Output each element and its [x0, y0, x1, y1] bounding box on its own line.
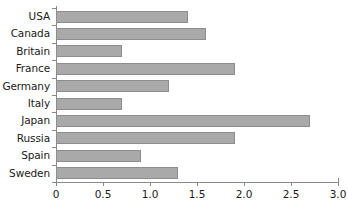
bar-sweden[interactable]: [56, 167, 178, 179]
bar-japan[interactable]: [56, 115, 310, 127]
bar-row: [56, 130, 338, 147]
y-axis-tick-usa: [52, 8, 56, 9]
bar-chart: USACanadaBritainFranceGermanyItalyJapanR…: [0, 0, 348, 209]
x-axis-tick-1.0: [150, 182, 151, 186]
x-axis-tick-label-3.0: 3.0: [323, 188, 348, 200]
bar-row: [56, 95, 338, 112]
x-axis-tick-2.0: [244, 182, 245, 186]
y-axis-tick-italy: [52, 95, 56, 96]
y-axis-tick-sweden: [52, 165, 56, 166]
bar-row: [56, 147, 338, 164]
y-axis-label-sweden: Sweden: [0, 165, 50, 182]
x-axis-tick-label-2.0: 2.0: [229, 188, 259, 200]
bar-germany[interactable]: [56, 80, 169, 92]
y-axis-tick-spain: [52, 147, 56, 148]
x-axis-tick-0.5: [103, 182, 104, 186]
y-axis-label-japan: Japan: [0, 112, 50, 129]
bar-russia[interactable]: [56, 132, 235, 144]
y-axis-tick-france: [52, 60, 56, 61]
bar-france[interactable]: [56, 63, 235, 75]
y-axis-tick-russia: [52, 130, 56, 131]
x-axis-tick-2.5: [291, 182, 292, 186]
bar-row: [56, 165, 338, 182]
y-axis-label-russia: Russia: [0, 130, 50, 147]
y-axis-tick-germany: [52, 78, 56, 79]
x-axis-tick-label-2.5: 2.5: [276, 188, 306, 200]
x-axis-tick-1.5: [197, 182, 198, 186]
bar-britain[interactable]: [56, 45, 122, 57]
bar-usa[interactable]: [56, 11, 188, 23]
y-axis-tick-japan: [52, 112, 56, 113]
y-axis-label-germany: Germany: [0, 78, 50, 95]
y-axis-label-usa: USA: [0, 8, 50, 25]
y-axis-label-italy: Italy: [0, 95, 50, 112]
x-axis-tick-label-0.5: 0.5: [88, 188, 118, 200]
y-axis-tick-canada: [52, 25, 56, 26]
bar-row: [56, 60, 338, 77]
bar-italy[interactable]: [56, 98, 122, 110]
bar-row: [56, 8, 338, 25]
y-axis-tick-end: [52, 182, 56, 183]
x-axis-tick-label-0: 0: [41, 188, 71, 200]
plot-area: [56, 8, 338, 182]
bar-row: [56, 112, 338, 129]
bar-canada[interactable]: [56, 28, 206, 40]
y-axis-tick-britain: [52, 43, 56, 44]
y-axis-label-spain: Spain: [0, 147, 50, 164]
x-axis-tick-0: [56, 182, 57, 186]
bar-row: [56, 78, 338, 95]
bar-row: [56, 25, 338, 42]
y-axis-label-france: France: [0, 60, 50, 77]
y-axis-label-canada: Canada: [0, 25, 50, 42]
x-axis-tick-label-1.5: 1.5: [182, 188, 212, 200]
y-axis-label-britain: Britain: [0, 43, 50, 60]
y-axis-category-labels: USACanadaBritainFranceGermanyItalyJapanR…: [0, 8, 50, 182]
x-axis-start-cap: [56, 178, 57, 182]
bar-spain[interactable]: [56, 150, 141, 162]
bar-row: [56, 43, 338, 60]
x-axis-tick-label-1.0: 1.0: [135, 188, 165, 200]
x-axis-end-cap: [338, 178, 339, 182]
x-axis-tick-3.0: [338, 182, 339, 186]
